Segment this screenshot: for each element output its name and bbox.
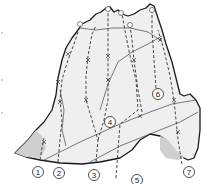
anchor-icon [78, 22, 83, 27]
svg-text:6: 6 [156, 90, 161, 99]
svg-text:4: 4 [108, 118, 113, 127]
svg-text:2: 2 [57, 169, 62, 178]
svg-text:1: 1 [36, 168, 41, 177]
anchor-icon [119, 11, 124, 16]
route-label-7: 7 [184, 167, 195, 178]
anchor-icon [150, 8, 155, 13]
route-label-1: 1 [33, 167, 44, 178]
route-label-2: 2 [54, 168, 65, 179]
svg-text:5: 5 [135, 176, 140, 185]
route-label-6: 6 [153, 89, 164, 100]
topo-diagram: 1 2 3 4 5 6 7 [0, 0, 212, 184]
anchor-icon [128, 23, 133, 28]
route-label-3: 3 [89, 170, 100, 181]
margin-tick [1, 112, 3, 114]
svg-text:7: 7 [187, 168, 192, 177]
margin-tick [1, 32, 3, 34]
svg-text:3: 3 [92, 171, 97, 180]
route-label-4: 4 [105, 117, 116, 128]
route-label-5: 5 [132, 175, 143, 185]
margin-tick [1, 79, 3, 81]
anchor-icon [106, 7, 111, 12]
